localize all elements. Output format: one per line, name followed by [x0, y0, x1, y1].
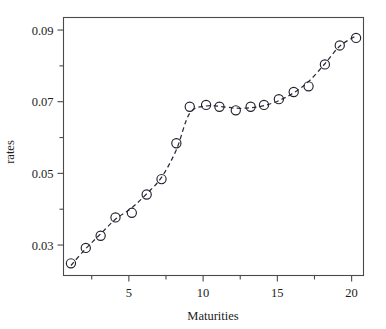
x-tick-label: 20	[345, 286, 358, 300]
y-tick-label: 0.03	[32, 239, 54, 253]
x-tick-label: 10	[197, 286, 210, 300]
y-tick-label: 0.05	[32, 167, 54, 181]
x-axis-label: Maturities	[187, 309, 239, 323]
scatter-plot-svg: 0.030.050.070.09 5101520 Maturities rate…	[0, 0, 386, 329]
y-axis-label: rates	[3, 140, 17, 164]
x-tick-label: 5	[126, 286, 132, 300]
y-tick-label: 0.07	[32, 95, 54, 109]
x-tick-label: 15	[271, 286, 284, 300]
figure-background	[0, 0, 386, 329]
y-tick-label: 0.09	[32, 24, 54, 38]
chart-figure: 0.030.050.070.09 5101520 Maturities rate…	[0, 0, 386, 329]
